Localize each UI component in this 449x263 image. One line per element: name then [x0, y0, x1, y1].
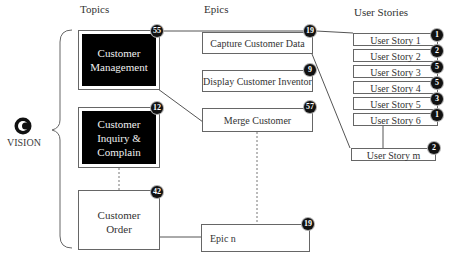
user-story-badge: 1 — [431, 29, 443, 41]
epic-display-customer-inventory[interactable]: Display Customer Inventor — [202, 70, 313, 92]
user-story-2[interactable]: User Story 2 — [353, 49, 438, 62]
epic-badge: 19 — [302, 218, 314, 230]
epic-capture-customer-data[interactable]: Capture Customer Data — [202, 32, 313, 54]
user-story-badge: 2 — [431, 45, 443, 57]
topic-customer-inquiry-complain[interactable]: Customer Inquiry & Complain — [78, 107, 160, 168]
epic-badge: 9 — [304, 64, 316, 76]
user-story-badge: 3 — [431, 93, 443, 105]
vision-c-icon — [14, 117, 32, 135]
topic-badge: 12 — [151, 102, 163, 114]
topic-label-line: Complain — [79, 146, 159, 159]
topic-label-line: Customer — [79, 47, 159, 60]
topic-badge: 55 — [151, 25, 163, 37]
topic-customer-order[interactable]: Customer Order — [78, 190, 160, 250]
topic-label-line: Customer — [79, 209, 159, 222]
epic-merge-customer[interactable]: Merge Customer — [202, 108, 313, 132]
user-story-5[interactable]: User Story 5 — [353, 97, 438, 110]
user-story-m[interactable]: User Story m — [351, 148, 436, 161]
vision-label: VISION — [7, 137, 41, 148]
epic-badge: 19 — [304, 25, 316, 37]
user-story-badge: 5 — [431, 77, 443, 89]
user-story-4[interactable]: User Story 4 — [353, 81, 438, 94]
user-story-badge: 5 — [431, 61, 443, 73]
topic-label-line: Management — [79, 61, 159, 74]
user-story-6[interactable]: User Story 6 — [353, 113, 438, 126]
header-epics: Epics — [204, 3, 228, 15]
epic-badge: 57 — [304, 101, 316, 113]
topic-badge: 42 — [151, 186, 163, 198]
header-user-stories: User Stories — [354, 6, 408, 18]
user-story-3[interactable]: User Story 3 — [353, 65, 438, 78]
user-story-1[interactable]: User Story 1 — [353, 33, 438, 46]
header-topics: Topics — [80, 3, 109, 15]
user-story-badge: 1 — [431, 109, 443, 121]
user-story-badge: 2 — [428, 142, 440, 154]
topic-label-line: Inquiry & — [79, 132, 159, 145]
epic-n[interactable]: Epic n — [201, 224, 310, 252]
topic-customer-management[interactable]: Customer Management — [78, 30, 160, 90]
topic-label-line: Customer — [79, 118, 159, 131]
topic-label-line: Order — [79, 223, 159, 236]
